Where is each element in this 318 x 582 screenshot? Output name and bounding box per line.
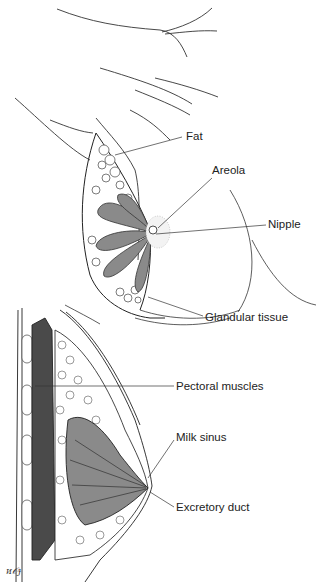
- label-milk-sinus: Milk sinus: [176, 432, 226, 444]
- artist-signature: ᴎ𝒪ɟ: [6, 566, 21, 577]
- label-pectoral-muscles: Pectoral muscles: [176, 381, 264, 393]
- label-nipple: Nipple: [268, 219, 301, 231]
- label-fat: Fat: [186, 131, 203, 143]
- anatomy-illustration: [0, 0, 318, 582]
- label-areola: Areola: [212, 165, 245, 177]
- lower-breast-section: [16, 308, 152, 582]
- label-glandular-tissue: Glandular tissue: [205, 312, 288, 324]
- label-excretory-duct: Excretory duct: [176, 502, 250, 514]
